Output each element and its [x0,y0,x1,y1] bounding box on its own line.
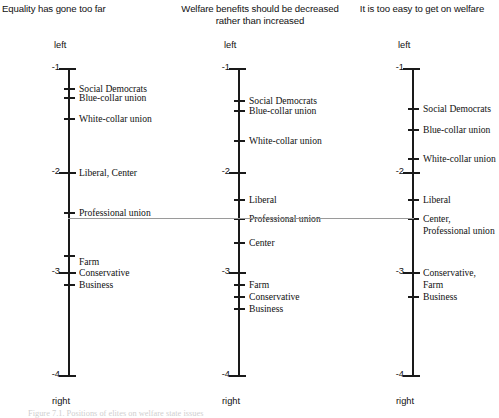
axis-tick-label: -3 [40,266,60,276]
data-point-label: Conservative [79,267,130,279]
axis-pole-label-top: left [398,40,410,50]
axis-tick [229,68,246,70]
data-point-tick [234,284,245,286]
axis-line [412,68,414,375]
data-point-tick [64,172,75,174]
data-point-label: White-collar union [79,113,152,125]
data-point-label: Farm [79,256,99,268]
data-point-tick [408,199,419,201]
data-point-tick [234,308,245,310]
axis-pole-label-bottom: right [396,396,414,406]
axis-tick [403,68,420,70]
axis-pole-label-top: left [224,40,236,50]
axis-tick-label: -4 [40,369,60,379]
data-point-tick [234,242,245,244]
data-point-tick [234,140,245,142]
professional-union-connector-line [238,218,414,219]
axis-tick-label: -4 [210,369,230,379]
axis-tick-label: -1 [210,62,230,72]
axis-line [238,68,240,375]
chart-panel-1: Welfare benefits should be decreased rat… [170,0,350,418]
data-point-label: Conservative [249,291,300,303]
data-point-label: Center [249,237,275,249]
data-point-tick [234,199,245,201]
data-point-tick [408,296,419,298]
axis-line [68,68,70,375]
axis-tick-label: -4 [384,369,404,379]
data-point-tick [234,110,245,112]
data-point-label: Center, Professional union [423,213,495,236]
data-point-tick [408,158,419,160]
data-point-label: Blue-collar union [249,105,316,117]
axis-pole-label-top: left [54,40,66,50]
axis-pole-label-bottom: right [52,396,70,406]
data-point-tick [234,100,245,102]
data-point-tick [64,212,75,214]
data-point-label: Conservative, Farm [423,267,476,290]
axis-tick [59,375,76,377]
data-point-tick [408,108,419,110]
data-point-label: White-collar union [249,135,322,147]
axis-tick-label: -1 [384,62,404,72]
data-point-label: Liberal [249,194,277,206]
data-point-tick [64,284,75,286]
data-point-label: Liberal [423,194,451,206]
professional-union-connector-line [68,218,240,219]
panel-title: It is too easy to get on welfare [345,3,499,15]
data-point-tick [64,272,75,274]
data-point-tick [64,118,75,120]
axis-tick-label: -3 [210,266,230,276]
data-point-label: Professional union [79,207,151,219]
data-point-label: Business [79,279,113,291]
data-point-tick [64,88,75,90]
axis-tick-label: -2 [384,166,404,176]
axis-tick-label: -1 [40,62,60,72]
panel-title: Welfare benefits should be decreased rat… [170,3,350,27]
data-point-tick [64,255,75,257]
axis-tick [403,172,420,174]
data-point-tick [408,272,419,274]
data-point-label: Business [249,303,283,315]
data-point-tick [408,129,419,131]
data-point-label: Social Democrats [423,103,491,115]
axis-tick [229,172,246,174]
data-point-label: Blue-collar union [423,124,490,136]
data-point-label: Liberal, Center [79,167,137,179]
axis-tick [59,68,76,70]
data-point-label: Farm [249,279,269,291]
axis-tick [403,375,420,377]
axis-pole-label-bottom: right [222,396,240,406]
data-point-tick [234,296,245,298]
axis-tick-label: -3 [384,266,404,276]
axis-tick [229,272,246,274]
data-point-label: White-collar union [423,153,496,165]
data-point-label: Business [423,291,457,303]
data-point-tick [64,97,75,99]
data-point-label: Blue-collar union [79,92,146,104]
chart-panel-2: It is too easy to get on welfare [345,0,499,418]
axis-tick-label: -2 [210,166,230,176]
axis-tick [229,375,246,377]
panel-title: Equality has gone too far [0,3,177,15]
axis-tick-label: -2 [40,166,60,176]
